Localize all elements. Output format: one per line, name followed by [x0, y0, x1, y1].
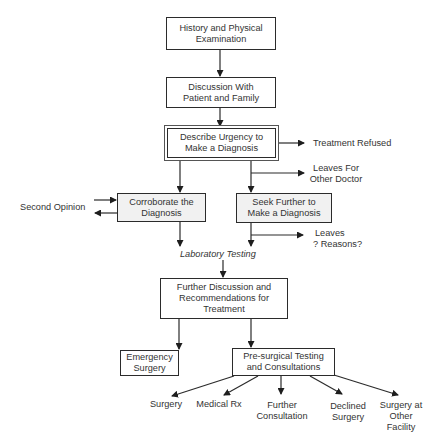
node-presurgical-testing: Pre-surgical Testing and Consultations — [232, 348, 335, 376]
label-text: Other Doctor — [305, 174, 367, 185]
node-text: Treatment — [177, 304, 271, 315]
outcome-surgery: Surgery — [144, 399, 188, 410]
node-text: Make a Diagnosis — [247, 208, 320, 219]
outcome-text: Medical Rx — [192, 399, 246, 410]
label-text: Leaves — [313, 228, 362, 239]
node-text: Make a Diagnosis — [180, 143, 263, 154]
label-laboratory-testing: Laboratory Testing — [180, 249, 256, 260]
node-text: History and Physical — [179, 23, 262, 34]
node-emergency-surgery: Emergency Surgery — [120, 350, 179, 376]
node-discussion-patient-family: Discussion With Patient and Family — [166, 77, 276, 108]
node-corroborate-diagnosis: Corroborate the Diagnosis — [117, 193, 206, 222]
arrow-to-surgery-other-facility — [334, 375, 398, 395]
arrow-to-surgery — [172, 376, 234, 396]
outcome-declined-surgery: Declined Surgery — [325, 401, 371, 423]
outcome-text: Surgery — [144, 399, 188, 410]
node-text: Patient and Family — [183, 93, 259, 104]
node-text: Further Discussion and — [177, 282, 271, 293]
node-text: Surgery — [126, 363, 172, 374]
outcome-surgery-other-facility: Surgery at Other Facility — [376, 400, 426, 433]
outcome-text: Consultation — [252, 411, 312, 422]
node-seek-further: Seek Further to Make a Diagnosis — [236, 193, 332, 223]
node-further-discussion: Further Discussion and Recommendations f… — [160, 278, 288, 319]
node-text: Emergency — [126, 352, 172, 363]
node-text: Diagnosis — [129, 208, 193, 219]
outcome-text: Further — [252, 400, 312, 411]
label-text: Leaves For — [305, 163, 367, 174]
label-leaves-other-doctor: Leaves For Other Doctor — [305, 163, 367, 185]
outcome-text: Surgery — [325, 412, 371, 423]
arrow-to-medical-rx — [224, 376, 258, 395]
label-second-opinion: Second Opinion — [20, 202, 85, 213]
outcome-text: Declined — [325, 401, 371, 412]
label-treatment-refused: Treatment Refused — [313, 138, 391, 149]
node-text: Corroborate the — [129, 197, 193, 208]
outcome-medical-rx: Medical Rx — [192, 399, 246, 410]
node-describe-urgency: Describe Urgency to Make a Diagnosis — [167, 128, 276, 158]
node-text: Seek Further to — [247, 197, 320, 208]
node-text: Recommendations for — [177, 293, 271, 304]
label-text: ? Reasons? — [313, 239, 362, 250]
label-leaves-reasons: Leaves ? Reasons? — [313, 228, 362, 250]
node-history-physical-examination: History and Physical Examination — [166, 17, 276, 50]
node-text: and Consultations — [243, 362, 324, 373]
outcome-text: Other — [376, 411, 426, 422]
arrow-to-declined-surgery — [310, 376, 342, 394]
connector-layer — [0, 0, 447, 446]
outcome-further-consultation: Further Consultation — [252, 400, 312, 422]
node-text: Examination — [179, 34, 262, 45]
node-text: Describe Urgency to — [180, 132, 263, 143]
outcome-text: Surgery at — [376, 400, 426, 411]
node-text: Pre-surgical Testing — [243, 351, 324, 362]
outcome-text: Facility — [376, 422, 426, 433]
node-text: Discussion With — [183, 82, 259, 93]
